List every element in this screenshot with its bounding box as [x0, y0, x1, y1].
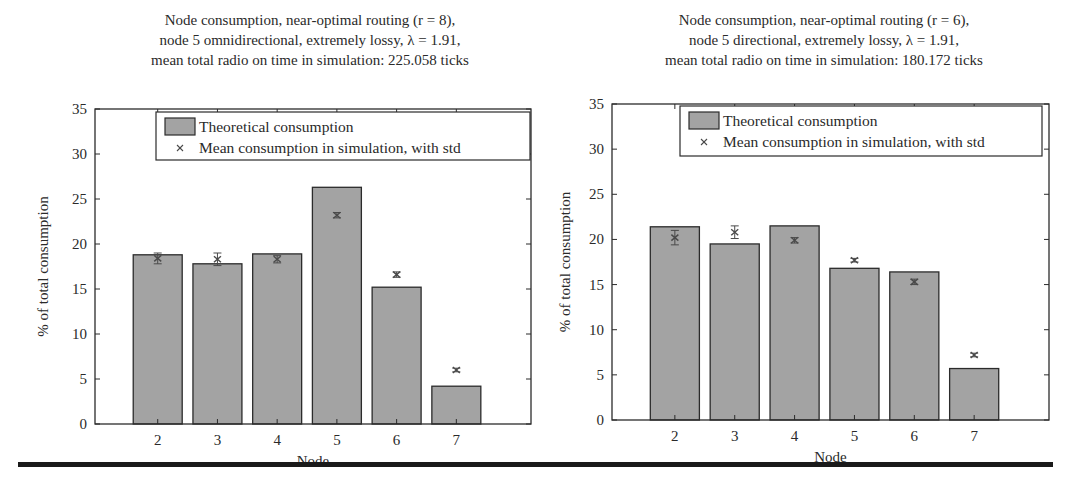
x-tick-label: 6	[911, 428, 919, 444]
legend-label-theoretical: Theoretical consumption	[723, 112, 878, 129]
y-tick-label: 30	[589, 141, 604, 157]
x-tick-label: 7	[970, 428, 978, 444]
y-tick-label: 0	[597, 412, 605, 428]
bar-node-6	[890, 272, 939, 420]
x-tick-label: 2	[671, 428, 679, 444]
bar-node-3	[710, 244, 759, 420]
x-tick-label: 5	[851, 428, 859, 444]
y-tick-label: 15	[589, 277, 604, 293]
x-tick-label: 4	[791, 428, 799, 444]
mean-marker-node-3	[731, 226, 739, 239]
bar-node-2	[650, 227, 699, 420]
legend-label-mean: Mean consumption in simulation, with std	[723, 133, 985, 150]
y-axis-label: % of total consumption	[557, 191, 573, 332]
y-tick-label: 25	[589, 186, 604, 202]
mean-marker-node-5	[850, 257, 858, 263]
bar-node-7	[950, 369, 999, 420]
mean-marker-node-7	[970, 352, 978, 358]
bar-node-5	[830, 268, 879, 420]
legend: Theoretical consumptionMean consumption …	[680, 106, 1042, 156]
y-tick-label: 35	[589, 96, 604, 112]
bar-node-4	[770, 226, 819, 420]
legend-bar-swatch	[689, 112, 719, 129]
x-tick-label: 3	[731, 428, 739, 444]
right-bar-chart: 05101520253035234567Node% of total consu…	[0, 0, 1078, 502]
y-tick-label: 5	[597, 367, 605, 383]
bottom-divider-rule	[18, 462, 1053, 467]
y-tick-label: 10	[589, 322, 604, 338]
y-tick-label: 20	[589, 231, 604, 247]
